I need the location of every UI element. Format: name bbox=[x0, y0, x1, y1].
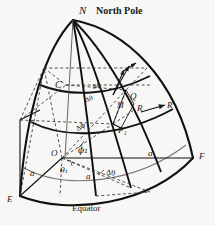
radius-label-a-bottom: a bbox=[86, 172, 91, 181]
spherical-coordinates-figure: N North Pole C Q M R R′ P₁ O F E Equator… bbox=[0, 0, 215, 225]
point-label-C: C bbox=[55, 80, 62, 90]
north-pole-title: North Pole bbox=[96, 6, 142, 16]
pole-label: N bbox=[79, 5, 86, 16]
radius-label-a-left: a bbox=[30, 169, 35, 178]
latitude-parallels bbox=[24, 76, 186, 181]
point-label-R-prime: R′ bbox=[167, 101, 174, 110]
point-label-M: M bbox=[117, 102, 124, 110]
origin-label-O: O bbox=[51, 149, 58, 158]
point-label-F: F bbox=[199, 152, 205, 161]
equator-label: Equator bbox=[72, 204, 101, 213]
point-label-Q: Q bbox=[130, 92, 137, 101]
radius-lines bbox=[20, 110, 193, 196]
angle-label-phi-1: ϕ₁ bbox=[78, 146, 88, 155]
point-label-P1: P₁ bbox=[118, 126, 127, 135]
radius-label-a-right: a bbox=[148, 149, 153, 158]
figure-drawing bbox=[0, 0, 215, 225]
angle-label-theta-1: θ₁ bbox=[60, 167, 68, 175]
point-label-R: R bbox=[137, 104, 143, 113]
point-label-E: E bbox=[7, 195, 13, 204]
angle-label-delta-theta: Δθ bbox=[105, 169, 115, 178]
polar-axis bbox=[65, 20, 73, 158]
